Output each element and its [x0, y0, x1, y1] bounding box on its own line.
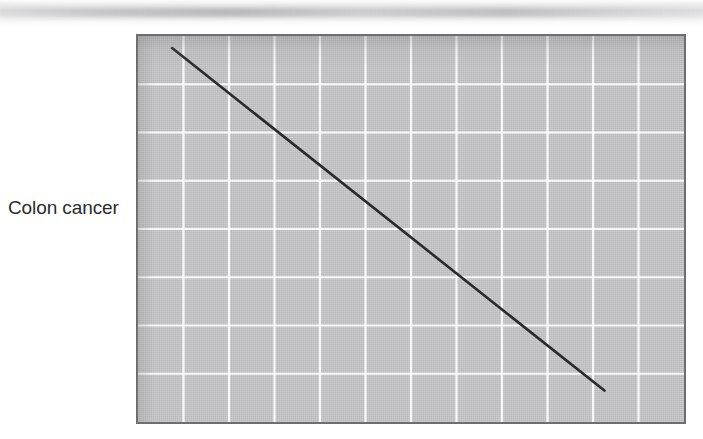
row-label-colon-cancer: Colon cancer	[8, 196, 128, 220]
scan-artifact-band	[0, 0, 703, 26]
chart-series-colon-cancer	[138, 36, 684, 422]
chart-plot-area	[136, 34, 686, 424]
